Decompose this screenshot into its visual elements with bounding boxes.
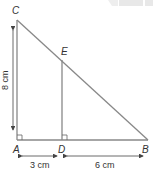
dim-ac: 8 cm: [0, 70, 10, 90]
triangle-diagram: C E A D B 8 cm 3 cm 6 cm: [0, 0, 158, 170]
side-cb: [17, 20, 148, 140]
right-angle-d: [62, 135, 67, 140]
watermark-shape: [108, 0, 153, 6]
triangle-abc: [17, 20, 148, 140]
dim-ad: 3 cm: [30, 160, 50, 170]
right-angle-a: [17, 135, 22, 140]
right-angle-markers: [17, 135, 67, 140]
dimension-arrows: [13, 30, 143, 156]
label-c: C: [12, 5, 20, 16]
dim-db: 6 cm: [95, 160, 115, 170]
label-a: A: [12, 144, 20, 155]
label-e: E: [61, 46, 68, 57]
label-b: B: [142, 144, 149, 155]
label-d: D: [58, 144, 65, 155]
